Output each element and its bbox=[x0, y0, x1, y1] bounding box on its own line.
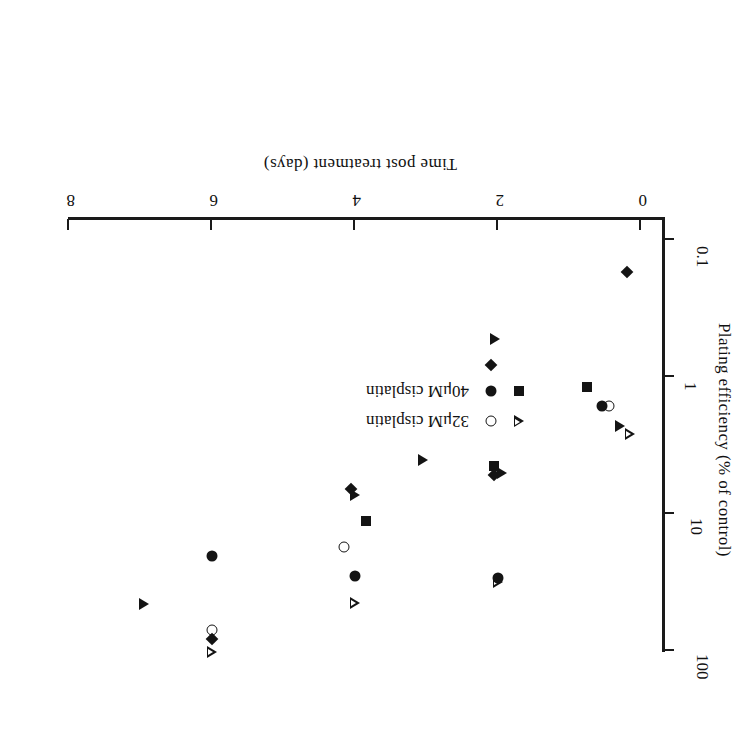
x-tick-8 bbox=[67, 219, 69, 230]
data-point-triangle-filled bbox=[497, 467, 507, 479]
y-tick-0p1 bbox=[663, 238, 674, 240]
data-point-triangle-filled bbox=[418, 454, 428, 466]
legend-circle-filled-icon bbox=[486, 386, 497, 397]
x-axis-title: Time post treatment (days) bbox=[264, 156, 457, 173]
y-tick-label-10: 10 bbox=[688, 518, 705, 535]
legend-triangle-open-icon bbox=[514, 416, 524, 428]
data-point-square-filled bbox=[361, 516, 371, 526]
x-tick-label-8: 8 bbox=[67, 192, 76, 209]
data-point-circle-filled bbox=[207, 551, 218, 562]
y-tick-10 bbox=[663, 512, 674, 514]
x-tick-label-2: 2 bbox=[496, 192, 505, 209]
x-tick-label-0: 0 bbox=[639, 192, 648, 209]
y-axis-line bbox=[662, 217, 665, 652]
legend-label-32um: 32μM cisplatin bbox=[366, 413, 469, 430]
x-tick-2 bbox=[496, 219, 498, 230]
legend-triangle-filled-icon bbox=[490, 333, 500, 345]
data-point-diamond-filled bbox=[621, 266, 634, 279]
data-point-triangle-open bbox=[207, 646, 217, 658]
legend-markers-40um-extra2 bbox=[479, 332, 525, 346]
data-point-triangle-filled bbox=[139, 598, 149, 610]
data-point-square-filled bbox=[582, 382, 592, 392]
data-point-triangle-filled bbox=[615, 420, 625, 432]
y-tick-label-1: 1 bbox=[682, 382, 699, 391]
x-tick-4 bbox=[353, 219, 355, 230]
data-point-circle-filled bbox=[597, 401, 608, 412]
data-point-triangle-open bbox=[625, 428, 635, 440]
legend-markers-40um bbox=[479, 385, 525, 399]
legend-markers-40um-extra bbox=[479, 358, 525, 372]
legend-markers-32um bbox=[479, 415, 525, 429]
y-tick-1 bbox=[663, 375, 674, 377]
x-axis-line bbox=[68, 217, 665, 220]
y-tick-label-0p1: 0.1 bbox=[694, 246, 711, 267]
data-point-triangle-filled bbox=[350, 489, 360, 501]
data-point-diamond-filled bbox=[206, 633, 219, 646]
legend-circle-open-icon bbox=[486, 416, 497, 427]
y-tick-label-100: 100 bbox=[694, 654, 711, 680]
legend-square-filled-icon bbox=[514, 387, 524, 397]
data-point-circle-open bbox=[339, 542, 350, 553]
y-axis-title: Plating efficiency (% of control) bbox=[716, 323, 733, 557]
data-point-triangle-open bbox=[350, 597, 360, 609]
legend-diamond-filled-icon bbox=[485, 359, 498, 372]
x-tick-0 bbox=[639, 219, 641, 230]
legend-item-40um: 40μM cisplatin bbox=[366, 383, 525, 400]
x-tick-6 bbox=[210, 219, 212, 230]
x-tick-label-6: 6 bbox=[210, 192, 219, 209]
data-point-circle-filled bbox=[350, 571, 361, 582]
legend-item-32um: 32μM cisplatin bbox=[366, 413, 525, 430]
data-point-circle-filled bbox=[493, 573, 504, 584]
legend-label-40um: 40μM cisplatin bbox=[366, 383, 469, 400]
y-tick-100 bbox=[663, 649, 674, 651]
x-tick-label-4: 4 bbox=[353, 192, 362, 209]
